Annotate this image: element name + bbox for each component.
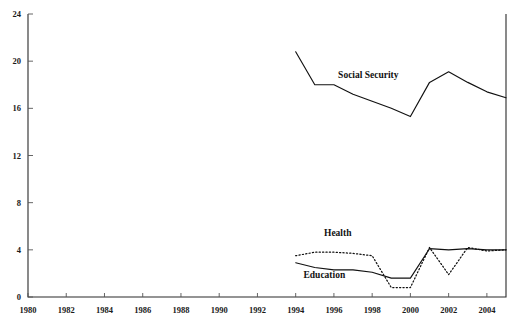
x-tick-label: 1980 — [20, 305, 37, 315]
chart-tick-marks — [28, 14, 487, 297]
y-tick-label: 0 — [17, 292, 21, 302]
x-tick-label: 1982 — [58, 305, 75, 315]
series-label-education: Education — [304, 270, 346, 280]
series-line-social-security — [296, 52, 506, 117]
x-tick-label: 1990 — [211, 305, 228, 315]
x-tick-label: 1994 — [287, 305, 305, 315]
x-axis-tick-labels: 1980198219841986198819901992199419961998… — [20, 305, 497, 315]
series-line-health — [296, 247, 506, 287]
plot-frame — [28, 14, 506, 297]
x-tick-label: 1992 — [249, 305, 266, 315]
chart-series-lines — [296, 52, 506, 288]
series-label-health: Health — [324, 228, 352, 238]
y-tick-label: 16 — [13, 103, 22, 113]
x-tick-label: 2004 — [478, 305, 496, 315]
y-tick-label: 24 — [13, 9, 22, 19]
series-label-social-security: Social Security — [338, 70, 399, 80]
chart-series-labels: Social SecurityHealthEducation — [304, 70, 399, 280]
x-tick-label: 1998 — [364, 305, 381, 315]
x-tick-label: 1988 — [172, 305, 189, 315]
x-tick-label: 1986 — [134, 305, 151, 315]
y-tick-label: 8 — [17, 198, 21, 208]
line-chart: 04812162024 1980198219841986198819901992… — [0, 0, 518, 327]
y-tick-label: 20 — [13, 56, 22, 66]
x-tick-label: 1984 — [96, 305, 114, 315]
x-tick-label: 1996 — [325, 305, 342, 315]
x-tick-label: 2002 — [440, 305, 457, 315]
x-tick-label: 2000 — [402, 305, 419, 315]
chart-container: 04812162024 1980198219841986198819901992… — [0, 0, 518, 327]
chart-axes — [28, 14, 506, 297]
y-axis-tick-labels: 04812162024 — [13, 9, 22, 302]
y-tick-label: 4 — [17, 245, 22, 255]
y-tick-label: 12 — [13, 151, 22, 161]
